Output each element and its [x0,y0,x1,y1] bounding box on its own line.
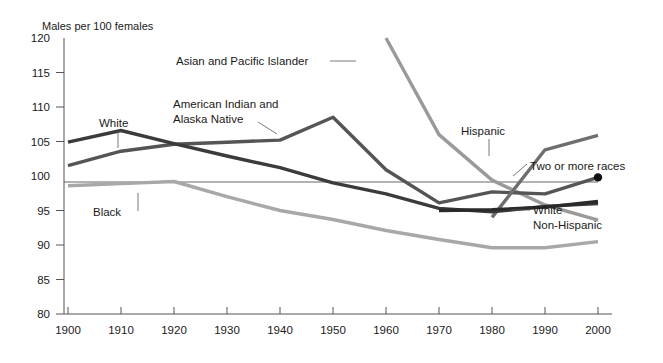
x-tick-label: 1910 [108,324,134,336]
series-line-american-indian-and-alaska-native [68,117,598,203]
x-tick-label: 1950 [320,324,346,336]
series-label-white: White [99,117,128,129]
two-or-more-races-marker[interactable] [594,173,602,181]
series-label-asian-pacific: Asian and Pacific Islander [176,55,308,67]
x-tick-label: 1980 [479,324,505,336]
chart-container: Males per 100 females 808590951001051101… [0,0,663,363]
line-chart: Males per 100 females 808590951001051101… [0,0,663,363]
series-label-white-nonhispanic-line1: White [533,204,562,216]
series-label-two-or-more-races: Two or more races [530,160,625,172]
x-tick-label: 1940 [267,324,293,336]
y-tick-label: 100 [31,170,50,182]
series-layer [68,38,598,248]
y-tick-label: 120 [31,32,50,44]
series-label-hispanic: Hispanic [461,125,505,137]
y-tick-label: 85 [37,274,50,286]
x-tick-label: 1900 [55,324,81,336]
x-tick-label: 1970 [426,324,452,336]
x-tick-label: 2000 [585,324,611,336]
y-tick-label: 95 [37,205,50,217]
x-tick-label: 1920 [161,324,187,336]
y-tick-label: 110 [32,101,50,113]
y-axis-ticks: 80859095100105110115120 [31,32,64,320]
series-label-white-nonhispanic-line2: Non-Hispanic [533,219,602,231]
series-label-american-indian-line1: American Indian and [173,98,278,110]
x-tick-label: 1930 [214,324,240,336]
y-tick-label: 80 [37,308,50,320]
chart-unit-title: Males per 100 females [42,20,154,32]
x-tick-label: 1960 [373,324,399,336]
series-label-black: Black [93,206,121,218]
series-label-american-indian-line2: Alaska Native [173,113,243,125]
x-tick-label: 1990 [532,324,558,336]
y-tick-label: 90 [37,239,50,251]
x-axis-ticks: 1900191019201930194019501960197019801990… [55,307,611,336]
y-tick-label: 115 [32,67,50,79]
y-tick-label: 105 [31,136,50,148]
american-indian-leader-line [258,122,277,134]
